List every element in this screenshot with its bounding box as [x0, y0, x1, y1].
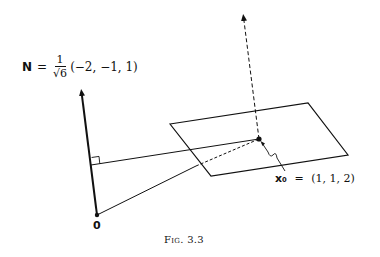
equals-sign: = — [37, 60, 47, 74]
x0-equals: = — [294, 172, 303, 185]
origin-label: 0 — [93, 219, 101, 232]
x0-symbol: x₀ — [275, 172, 287, 185]
normal-components: (−2, −1, 1) — [70, 60, 138, 74]
fraction-denominator: √6 — [53, 67, 67, 79]
normal-vector-n — [82, 92, 98, 215]
x0-coordinates: (1, 1, 2) — [311, 172, 355, 185]
n-symbol: N — [22, 60, 32, 74]
origin-to-x0-line — [97, 166, 196, 215]
figure-caption: Fig. 3.3 — [164, 234, 204, 245]
leader-arrow-icon — [261, 141, 266, 146]
origin-to-x0-hidden — [196, 139, 259, 166]
perpendicular-line — [91, 139, 259, 165]
point-x0 — [256, 136, 261, 141]
x0-label: x₀ = (1, 1, 2) — [275, 172, 355, 185]
dashed-normal-at-x0 — [244, 17, 260, 139]
diagram-canvas — [0, 0, 380, 257]
fraction-numerator: 1 — [55, 54, 66, 67]
right-angle-mark — [92, 156, 100, 163]
normal-vector-label: N = 1 √6 (−2, −1, 1) — [22, 54, 138, 79]
origin-point — [95, 213, 99, 217]
fraction: 1 √6 — [53, 54, 67, 79]
